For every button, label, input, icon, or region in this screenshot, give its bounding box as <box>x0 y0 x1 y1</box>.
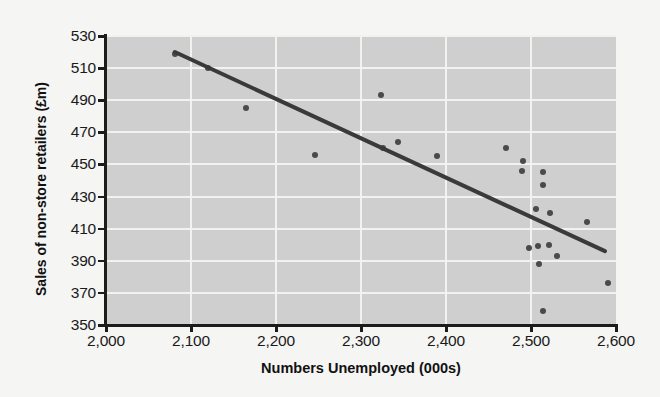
data-point <box>172 51 178 57</box>
data-point <box>547 210 553 216</box>
x-axis-tick <box>105 324 108 332</box>
y-axis-tick <box>98 67 106 70</box>
data-point <box>540 308 546 314</box>
x-axis-tick <box>445 324 448 332</box>
y-axis-tick-label: 450 <box>71 156 96 172</box>
y-axis-tick <box>98 196 106 199</box>
x-axis-title: Numbers Unemployed (000s) <box>106 360 616 376</box>
data-point <box>380 145 386 151</box>
data-point <box>503 145 509 151</box>
data-point <box>519 168 525 174</box>
x-axis-tick-label: 2,200 <box>257 332 295 350</box>
data-point <box>540 169 546 175</box>
data-point <box>243 105 249 111</box>
y-axis-tick-label: 490 <box>71 92 96 108</box>
gridline-vertical <box>275 36 277 325</box>
y-axis-title: Sales of non-store retailers (£m) <box>33 44 49 334</box>
y-axis-tick-label: 430 <box>71 189 96 205</box>
x-axis-tick-label: 2,100 <box>172 332 210 350</box>
y-axis-tick <box>98 99 106 102</box>
y-axis-tick <box>98 260 106 263</box>
x-axis-tick <box>190 324 193 332</box>
y-axis-tick-label: 370 <box>71 285 96 301</box>
data-point <box>584 219 590 225</box>
y-axis-tick <box>98 163 106 166</box>
y-axis-tick <box>98 292 106 295</box>
y-axis-tick <box>98 35 106 38</box>
y-axis-tick-label: 470 <box>71 124 96 140</box>
data-point <box>605 280 611 286</box>
chart-figure: Sales of non-store retailers (£m) 350370… <box>0 0 660 397</box>
y-axis-tick-label: 350 <box>71 317 96 333</box>
data-point <box>540 182 546 188</box>
gridline-vertical <box>190 36 192 325</box>
y-axis-tick <box>98 228 106 231</box>
y-axis-tick-label: 530 <box>71 28 96 44</box>
x-axis-tick-label: 2,500 <box>512 332 550 350</box>
x-axis-tick-label: 2,400 <box>427 332 465 350</box>
data-point <box>520 158 526 164</box>
data-point <box>554 253 560 259</box>
data-point <box>536 261 542 267</box>
data-point <box>395 139 401 145</box>
y-axis-line <box>104 34 107 327</box>
plot-area <box>106 36 616 325</box>
x-axis-tick <box>275 324 278 332</box>
x-axis-tick <box>615 324 618 332</box>
gridline-vertical <box>530 36 532 325</box>
data-point <box>312 152 318 158</box>
x-axis-tick-label: 2,600 <box>597 332 635 350</box>
data-point <box>533 206 539 212</box>
x-axis-tick-label: 2,300 <box>342 332 380 350</box>
data-point <box>378 92 384 98</box>
x-axis-tick-label: 2,000 <box>87 332 125 350</box>
y-axis-tick-label: 510 <box>71 60 96 76</box>
y-axis-tick-label: 390 <box>71 253 96 269</box>
gridline-vertical <box>445 36 447 325</box>
gridline-vertical <box>360 36 362 325</box>
data-point <box>546 242 552 248</box>
x-axis-tick <box>530 324 533 332</box>
data-point <box>526 245 532 251</box>
data-point <box>434 153 440 159</box>
y-axis-tick-label: 410 <box>71 221 96 237</box>
data-point <box>535 243 541 249</box>
y-axis-tick <box>98 131 106 134</box>
x-axis-tick <box>360 324 363 332</box>
data-point <box>205 65 211 71</box>
